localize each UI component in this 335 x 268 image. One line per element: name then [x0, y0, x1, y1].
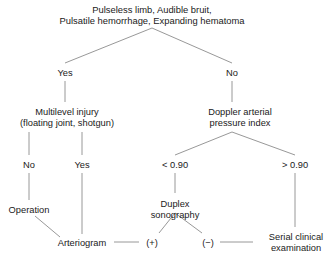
- node-doppler-line-1: pressure index: [208, 118, 272, 129]
- node-operation-line-0: Operation: [9, 205, 50, 216]
- edge-operation-to-arteriogram: [35, 216, 60, 237]
- node-negative: (−): [202, 238, 214, 249]
- node-positive: (+): [146, 238, 158, 249]
- node-gt090-line-0: > 0.90: [282, 160, 308, 171]
- node-multilevel-line-0: Multilevel injury: [20, 107, 114, 118]
- node-no1-line-0: No: [226, 68, 238, 79]
- node-duplex: Duplexsonography: [151, 199, 200, 221]
- node-arteriogram: Arteriogram: [58, 238, 107, 249]
- node-no2-line-0: No: [23, 160, 35, 171]
- node-yes2-line-0: Yes: [74, 160, 89, 171]
- node-doppler: Doppler arterialpressure index: [208, 107, 272, 129]
- edge-root-to-no1: [152, 28, 232, 63]
- node-yes2: Yes: [74, 160, 89, 171]
- node-yes1: Yes: [57, 68, 72, 79]
- node-negative-line-0: (−): [202, 238, 214, 249]
- edge-root-to-yes1: [65, 28, 152, 63]
- node-arteriogram-line-0: Arteriogram: [58, 238, 107, 249]
- edge-doppler-to-gt090: [232, 132, 295, 155]
- edge-doppler-to-lt090: [175, 132, 232, 155]
- node-root: Pulseless limb, Audible bruit,Pulsatile …: [59, 4, 244, 26]
- node-serial-line-1: examination: [269, 243, 323, 254]
- node-duplex-line-1: sonography: [151, 210, 200, 221]
- node-serial-line-0: Serial clinical: [269, 232, 323, 243]
- node-lt090: < 0.90: [162, 160, 188, 171]
- node-operation: Operation: [9, 205, 50, 216]
- node-multilevel-line-1: (floating joint, shotgun): [20, 118, 114, 129]
- node-no2: No: [23, 160, 35, 171]
- node-no1: No: [226, 68, 238, 79]
- node-positive-line-0: (+): [146, 238, 158, 249]
- node-yes1-line-0: Yes: [57, 68, 72, 79]
- node-root-line-0: Pulseless limb, Audible bruit,: [59, 4, 244, 15]
- node-duplex-line-0: Duplex: [151, 199, 200, 210]
- node-multilevel: Multilevel injury(floating joint, shotgu…: [20, 107, 114, 129]
- node-gt090: > 0.90: [282, 160, 308, 171]
- clinical-decision-tree-diagram: Pulseless limb, Audible bruit,Pulsatile …: [0, 0, 335, 268]
- node-doppler-line-0: Doppler arterial: [208, 107, 272, 118]
- node-serial: Serial clinicalexamination: [269, 232, 323, 254]
- edge-layer: [0, 0, 335, 268]
- node-root-line-1: Pulsatile hemorrhage, Expanding hematoma: [59, 15, 244, 26]
- node-lt090-line-0: < 0.90: [162, 160, 188, 171]
